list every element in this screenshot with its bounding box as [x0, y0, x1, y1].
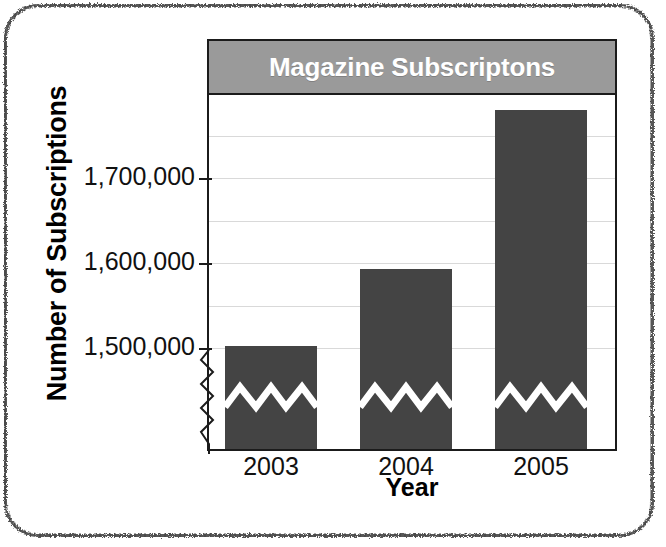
chart-title: Magazine Subscriptons [269, 52, 555, 83]
chart-title-band: Magazine Subscriptons [209, 41, 615, 95]
y-tick-label: 1,600,000 [40, 247, 195, 276]
y-tick-mark [199, 348, 212, 350]
y-tick-label: 1,500,000 [40, 332, 195, 361]
bar-chart: Number of Subscriptions Magazine Subscri… [0, 0, 666, 547]
bar [225, 346, 317, 449]
y-tick-label: 1,700,000 [40, 162, 195, 191]
plot-area [209, 95, 615, 449]
bar [360, 269, 452, 449]
y-tick-mark [199, 263, 212, 265]
y-axis-title: Number of Subscriptions [42, 29, 73, 459]
y-tick-mark [199, 178, 212, 180]
x-tick-label: 2005 [481, 452, 601, 481]
x-tick-label: 2004 [346, 452, 466, 481]
x-tick-label: 2003 [211, 452, 331, 481]
bar [495, 110, 587, 449]
